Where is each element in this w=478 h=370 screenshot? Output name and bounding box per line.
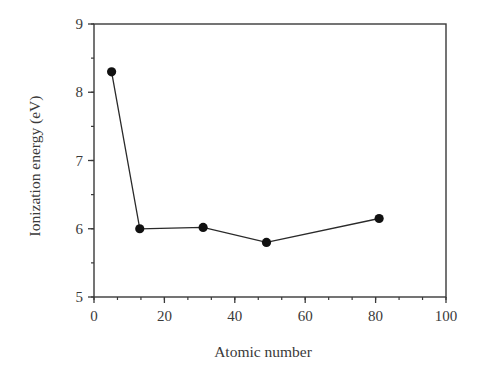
y-tick-label: 6 <box>76 221 84 237</box>
y-tick-label: 8 <box>76 84 84 100</box>
series-line <box>112 72 380 243</box>
data-point-marker <box>262 238 271 247</box>
x-axis-ticks: 020406080100 <box>90 297 457 324</box>
y-axis-title: Ionization energy (eV) <box>26 96 44 237</box>
data-point-marker <box>135 224 144 233</box>
series-layer <box>107 67 384 247</box>
y-tick-label: 7 <box>76 153 84 169</box>
data-point-marker <box>375 214 384 223</box>
x-tick-label: 80 <box>368 308 383 324</box>
y-axis-ticks: 56789 <box>76 16 95 305</box>
x-tick-label: 40 <box>227 308 242 324</box>
data-point-marker <box>199 223 208 232</box>
x-tick-label: 0 <box>90 308 98 324</box>
chart-canvas: 020406080100 56789 Atomic number Ionizat… <box>0 0 478 370</box>
plot-frame <box>94 24 446 297</box>
x-tick-label: 60 <box>298 308 313 324</box>
data-point-marker <box>107 67 116 76</box>
chart: 020406080100 56789 Atomic number Ionizat… <box>0 0 478 370</box>
y-tick-label: 5 <box>76 289 84 305</box>
y-tick-label: 9 <box>76 16 84 32</box>
plot-border <box>94 24 446 297</box>
x-axis-title: Atomic number <box>214 343 313 360</box>
x-tick-label: 100 <box>435 308 458 324</box>
x-tick-label: 20 <box>157 308 172 324</box>
